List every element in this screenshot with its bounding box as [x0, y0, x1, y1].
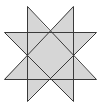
- star-diagram: [0, 0, 108, 103]
- star-fill: [4, 6, 96, 101]
- star-svg: [0, 0, 108, 103]
